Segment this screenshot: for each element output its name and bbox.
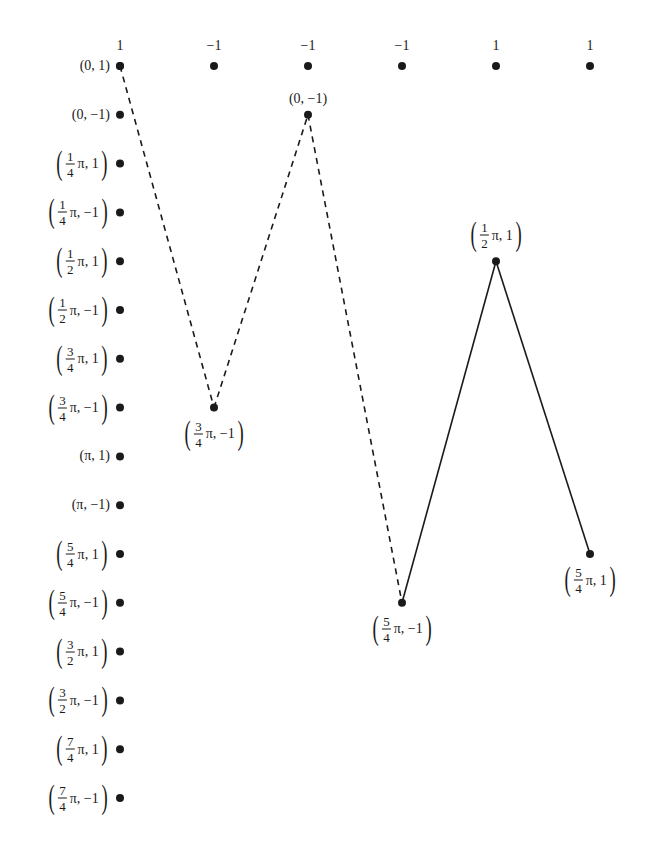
path-point-label: (0, −1) bbox=[289, 92, 327, 106]
state-dot bbox=[116, 501, 124, 509]
fraction: 12 bbox=[480, 220, 489, 251]
fraction: 34 bbox=[194, 418, 203, 449]
state-dot bbox=[210, 62, 218, 70]
fraction: 32 bbox=[58, 685, 67, 716]
state-dot bbox=[116, 208, 124, 216]
fraction: 74 bbox=[66, 734, 75, 765]
path-dot bbox=[492, 257, 500, 265]
row-label: (0, −1) bbox=[72, 108, 110, 122]
row-label: (12π, 1) bbox=[54, 246, 110, 277]
row-label: (12π, −1) bbox=[46, 295, 110, 326]
fraction: 54 bbox=[66, 539, 75, 570]
state-dot bbox=[116, 794, 124, 802]
row-label: (14π, 1) bbox=[54, 148, 110, 179]
dashed-segment bbox=[308, 115, 402, 603]
state-dot bbox=[586, 62, 594, 70]
row-label: (34π, 1) bbox=[54, 343, 110, 374]
state-dot bbox=[116, 452, 124, 460]
fraction: 74 bbox=[58, 783, 67, 814]
row-label: (34π, −1) bbox=[46, 392, 110, 423]
column-header: −1 bbox=[207, 38, 222, 54]
state-dot bbox=[116, 696, 124, 704]
fraction: 32 bbox=[66, 636, 75, 667]
path-dot bbox=[210, 404, 218, 412]
state-dot bbox=[116, 599, 124, 607]
row-label: (54π, −1) bbox=[46, 587, 110, 618]
row-label: (32π, 1) bbox=[54, 636, 110, 667]
fraction: 54 bbox=[382, 613, 391, 644]
state-dot bbox=[398, 62, 406, 70]
fraction: 12 bbox=[58, 295, 67, 326]
path-dot bbox=[398, 599, 406, 607]
state-dot bbox=[304, 62, 312, 70]
column-header: 1 bbox=[587, 38, 594, 54]
fraction: 12 bbox=[66, 246, 75, 277]
path-point-label: (12π, 1) bbox=[468, 220, 524, 251]
row-label: (0, 1) bbox=[80, 59, 110, 73]
state-dot bbox=[116, 355, 124, 363]
column-header: −1 bbox=[301, 38, 316, 54]
path-point-label: (54π, 1) bbox=[562, 565, 618, 596]
path-dot bbox=[586, 550, 594, 558]
row-label: (74π, −1) bbox=[46, 783, 110, 814]
path-segments bbox=[120, 66, 590, 603]
row-label: (54π, 1) bbox=[54, 539, 110, 570]
state-dot bbox=[116, 306, 124, 314]
path-point-label: (54π, −1) bbox=[370, 613, 434, 644]
row-label: (32π, −1) bbox=[46, 685, 110, 716]
solid-segment bbox=[496, 261, 590, 554]
state-dot bbox=[116, 648, 124, 656]
state-dot bbox=[492, 62, 500, 70]
fraction: 14 bbox=[58, 197, 67, 228]
state-dot bbox=[116, 257, 124, 265]
fraction: 34 bbox=[66, 343, 75, 374]
row-label: (74π, 1) bbox=[54, 734, 110, 765]
state-dot bbox=[116, 111, 124, 119]
column-header: −1 bbox=[395, 38, 410, 54]
fraction: 34 bbox=[58, 392, 67, 423]
row-label: (14π, −1) bbox=[46, 197, 110, 228]
row-label: (π, 1) bbox=[80, 449, 110, 463]
solid-segment bbox=[402, 261, 496, 603]
state-dot bbox=[116, 745, 124, 753]
path-dot bbox=[116, 62, 124, 70]
fraction: 14 bbox=[66, 148, 75, 179]
row-label: (π, −1) bbox=[72, 498, 110, 512]
state-dot bbox=[116, 550, 124, 558]
path-point-label: (34π, −1) bbox=[182, 418, 246, 449]
fraction: 54 bbox=[574, 565, 583, 596]
state-dot bbox=[116, 404, 124, 412]
dashed-segment bbox=[120, 66, 214, 408]
path-dot bbox=[304, 111, 312, 119]
state-dot bbox=[116, 160, 124, 168]
fraction: 54 bbox=[58, 587, 67, 618]
dashed-segment bbox=[214, 115, 308, 408]
column-header: 1 bbox=[493, 38, 500, 54]
column-header: 1 bbox=[117, 38, 124, 54]
